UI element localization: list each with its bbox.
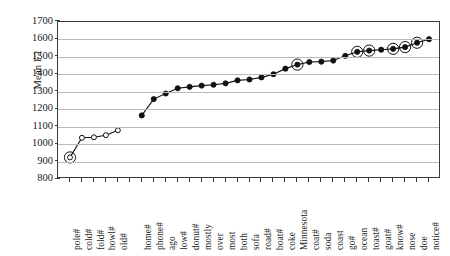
x-tick-mark — [320, 178, 321, 182]
x-tick-mark — [153, 178, 154, 182]
x-tick-mark — [356, 178, 357, 182]
x-tick-mark — [392, 178, 393, 182]
chart-figure: Mean F2 17001600150014001300120011001000… — [0, 0, 450, 256]
x-axis: pole#cold#fold#bowl#old#home#phone#agolo… — [0, 0, 450, 256]
x-tick-mark — [237, 178, 238, 182]
x-tick-mark — [69, 178, 70, 182]
x-tick-mark — [272, 178, 273, 182]
x-tick-label: home# — [144, 224, 153, 250]
x-tick-label: toast# — [372, 227, 381, 250]
x-tick-mark — [428, 178, 429, 182]
x-tick-mark — [201, 178, 202, 182]
x-tick-mark — [249, 178, 250, 182]
x-tick-mark — [141, 178, 142, 182]
x-tick-label: coast — [336, 230, 345, 250]
x-tick-label: coat# — [312, 229, 321, 250]
x-tick-mark — [308, 178, 309, 182]
x-tick-label: old# — [120, 233, 129, 250]
x-tick-mark — [129, 178, 130, 182]
x-tick-label: fold# — [97, 230, 106, 250]
x-tick-label: goat# — [384, 229, 393, 250]
x-tick-label: both — [240, 233, 249, 250]
x-tick-mark — [81, 178, 82, 182]
x-tick-mark — [344, 178, 345, 182]
x-tick-mark — [213, 178, 214, 182]
x-tick-label: soda — [324, 233, 333, 250]
x-tick-label: phone# — [156, 222, 165, 250]
x-tick-label: boat# — [276, 229, 285, 250]
x-tick-label: sofa — [252, 234, 261, 250]
x-tick-label: bowl# — [108, 226, 117, 250]
x-tick-label: doe — [420, 236, 429, 250]
x-tick-label: low# — [180, 231, 189, 250]
x-tick-mark — [380, 178, 381, 182]
x-tick-mark — [416, 178, 417, 182]
x-tick-mark — [225, 178, 226, 182]
x-tick-mark — [189, 178, 190, 182]
x-tick-mark — [165, 178, 166, 182]
x-tick-label: cold# — [85, 229, 94, 250]
x-tick-label: know# — [396, 224, 405, 250]
x-tick-label: ago — [168, 236, 177, 250]
x-tick-label: mostly — [204, 224, 213, 250]
x-tick-mark — [260, 178, 261, 182]
x-tick-mark — [105, 178, 106, 182]
x-tick-label: coke — [288, 232, 297, 250]
x-tick-mark — [332, 178, 333, 182]
x-tick-mark — [368, 178, 369, 182]
x-tick-label: notice# — [432, 222, 441, 250]
x-tick-mark — [404, 178, 405, 182]
x-tick-label: road# — [264, 228, 273, 250]
x-tick-mark — [177, 178, 178, 182]
x-tick-mark — [117, 178, 118, 182]
x-tick-label: over — [216, 233, 225, 250]
x-tick-mark — [296, 178, 297, 182]
x-tick-label: pole# — [73, 229, 82, 250]
x-tick-label: most — [228, 232, 237, 250]
x-tick-label: ocean — [360, 228, 369, 250]
x-tick-label: nose — [408, 233, 417, 250]
x-tick-label: donut# — [192, 224, 201, 250]
x-tick-mark — [284, 178, 285, 182]
x-tick-label: go# — [348, 236, 357, 250]
x-tick-label: Minnesota — [300, 210, 309, 250]
x-tick-mark — [93, 178, 94, 182]
